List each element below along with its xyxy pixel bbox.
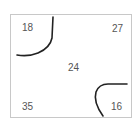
label-bottom-right: 16 <box>111 102 122 112</box>
number-square-diagram: 18 27 24 35 16 <box>0 0 138 126</box>
label-center: 24 <box>68 63 79 73</box>
label-bottom-left: 35 <box>22 102 33 112</box>
label-top-left: 18 <box>22 23 33 33</box>
label-top-right: 27 <box>112 24 123 34</box>
